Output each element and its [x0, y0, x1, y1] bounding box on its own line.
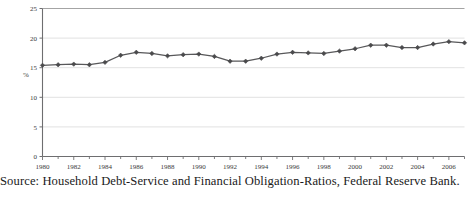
y-tick-label-15: 15	[30, 64, 38, 72]
y-tick-label-25: 25	[30, 5, 38, 13]
data-point-1984	[103, 60, 107, 64]
data-point-1996	[290, 50, 294, 54]
x-tick-label-1988: 1988	[161, 163, 176, 171]
data-point-2002	[384, 43, 388, 47]
data-point-1999	[337, 49, 341, 53]
x-tick-label-1990: 1990	[192, 163, 207, 171]
data-point-2001	[369, 43, 373, 47]
data-point-2007	[462, 41, 466, 45]
data-point-1994	[259, 56, 263, 60]
y-tick-label-0: 0	[34, 153, 38, 161]
line-chart: 0510152025 19801982198419861988199019921…	[0, 0, 473, 172]
data-point-1997	[306, 51, 310, 55]
x-tick-label-1982: 1982	[67, 163, 82, 171]
data-point-1987	[150, 51, 154, 55]
data-point-2005	[431, 42, 435, 46]
data-point-1993	[243, 59, 247, 63]
data-point-1980	[40, 63, 44, 67]
x-tick-label-1984: 1984	[98, 163, 113, 171]
data-point-1998	[322, 51, 326, 55]
y-tick-label-10: 10	[30, 94, 38, 102]
x-tick-label-1992: 1992	[223, 163, 238, 171]
data-point-2004	[415, 45, 419, 49]
gridlines	[43, 9, 465, 127]
data-point-1992	[228, 59, 232, 63]
data-markers	[40, 39, 466, 67]
data-point-1981	[56, 63, 60, 67]
x-tick-label-1980: 1980	[36, 163, 51, 171]
chart-plot-area: 0510152025 19801982198419861988199019921…	[0, 0, 473, 172]
figure: 0510152025 19801982198419861988199019921…	[0, 0, 473, 197]
x-tick-label-2006: 2006	[442, 163, 457, 171]
y-tick-label-20: 20	[30, 35, 38, 43]
data-point-2006	[447, 39, 451, 43]
x-tick-label-1994: 1994	[254, 163, 269, 171]
x-axis: 1980198219841986198819901992199419961998…	[36, 157, 465, 172]
data-point-2003	[400, 45, 404, 49]
data-point-1983	[87, 63, 91, 67]
x-tick-label-1986: 1986	[129, 163, 144, 171]
data-point-1990	[197, 52, 201, 56]
y-tick-label-5: 5	[34, 124, 38, 132]
y-axis-title: %	[23, 71, 29, 79]
data-point-1991	[212, 54, 216, 58]
x-tick-label-1996: 1996	[286, 163, 301, 171]
x-tick-label-1998: 1998	[317, 163, 332, 171]
x-tick-label-2002: 2002	[379, 163, 394, 171]
data-point-1988	[165, 54, 169, 58]
data-point-1985	[118, 53, 122, 57]
data-point-1995	[275, 52, 279, 56]
data-point-1982	[72, 62, 76, 66]
x-tick-label-2000: 2000	[348, 163, 363, 171]
x-tick-label-2004: 2004	[411, 163, 426, 171]
y-axis: 0510152025	[30, 5, 43, 161]
data-point-1986	[134, 50, 138, 54]
data-point-1989	[181, 52, 185, 56]
data-point-2000	[353, 47, 357, 51]
source-caption: Source: Household Debt-Service and Finan…	[0, 173, 473, 189]
